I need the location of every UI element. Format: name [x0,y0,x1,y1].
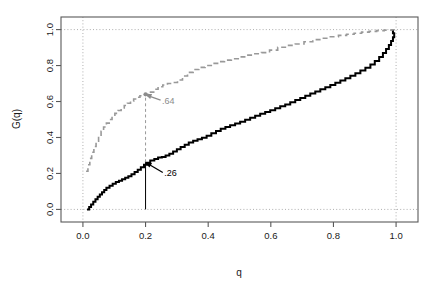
x-tick-label: 0.0 [76,230,89,241]
y-tick-label: 1.0 [45,23,56,36]
x-tick-label: 0.4 [202,230,215,241]
y-tick-label: 0.0 [45,203,56,216]
y-axis-title: G(q) [11,109,22,129]
x-tick-label: 1.0 [389,230,402,241]
chart-background [0,0,433,287]
y-tick-label: 0.2 [45,167,56,180]
x-tick-label: 0.2 [139,230,152,241]
chart-plot: 0.00.20.40.60.81.0 0.00.20.40.60.81.0 .2… [0,0,433,287]
y-tick-label: 0.8 [45,59,56,72]
black-point-annotation-label: .26 [164,168,177,178]
x-tick-label: 0.8 [327,230,340,241]
x-tick-label: 0.6 [264,230,277,241]
chart-container: 0.00.20.40.60.81.0 0.00.20.40.60.81.0 .2… [0,0,433,287]
x-axis-title: q [236,267,242,278]
gray-point-annotation-label: .64 [162,96,175,106]
y-tick-label: 0.4 [45,131,56,144]
y-tick-label: 0.6 [45,95,56,108]
